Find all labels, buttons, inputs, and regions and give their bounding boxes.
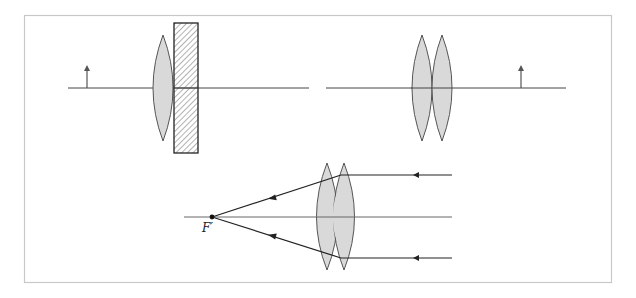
ray-arrow-icon bbox=[413, 255, 419, 261]
focal-point bbox=[210, 215, 215, 220]
ray-arrow-icon bbox=[268, 195, 277, 201]
converging-lens-left bbox=[153, 35, 173, 141]
bottom-panel: F′ bbox=[184, 163, 452, 270]
image-arrow-icon bbox=[518, 65, 524, 88]
diagram-border bbox=[25, 16, 612, 283]
ray-arrow-icon bbox=[413, 172, 419, 178]
ray-arrow-icon bbox=[268, 234, 277, 240]
object-arrow-icon bbox=[84, 65, 90, 88]
optics-diagram: F′ bbox=[0, 0, 636, 298]
left-panel bbox=[68, 23, 309, 153]
focal-point-label: F′ bbox=[201, 221, 213, 235]
right-panel bbox=[326, 35, 566, 141]
